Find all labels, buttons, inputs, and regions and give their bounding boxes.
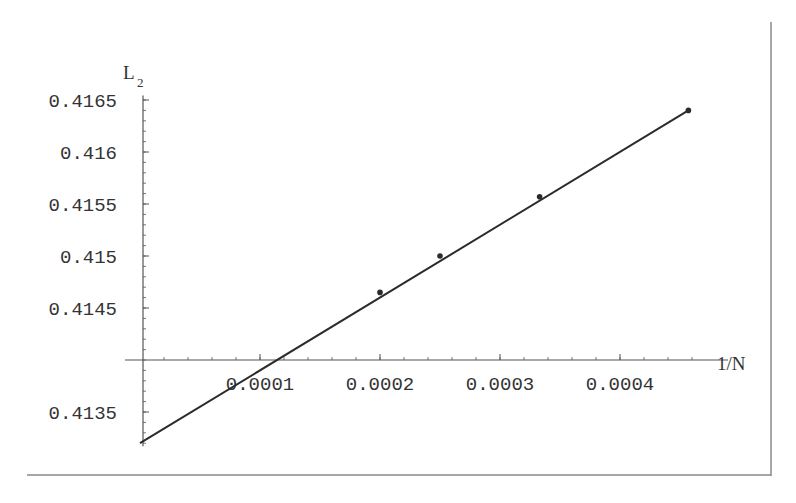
x-axis-title: 1/N: [717, 353, 746, 374]
y-tick-label: 0.4165: [49, 91, 117, 113]
y-tick-label: 0.4135: [49, 403, 117, 425]
y-axis-title-subscript: 2: [137, 75, 144, 90]
data-point-marker: [686, 108, 692, 114]
data-point-marker: [537, 194, 543, 200]
data-point-marker: [437, 253, 443, 259]
data-point-marker: [377, 290, 383, 296]
y-tick-label: 0.415: [60, 247, 117, 269]
x-tick-label: 0.0003: [466, 374, 534, 396]
chart-canvas: 0.41650.4160.41550.4150.41450.41350.0001…: [0, 0, 796, 503]
x-tick-label: 0.0004: [586, 374, 654, 396]
x-tick-label: 0.0002: [346, 374, 414, 396]
y-tick-label: 0.416: [60, 143, 117, 165]
y-tick-label: 0.4155: [49, 195, 117, 217]
ticks: 0.41650.4160.41550.4150.41450.41350.0001…: [49, 91, 692, 443]
y-tick-label: 0.4145: [49, 299, 117, 321]
y-axis-title: L: [123, 62, 135, 83]
